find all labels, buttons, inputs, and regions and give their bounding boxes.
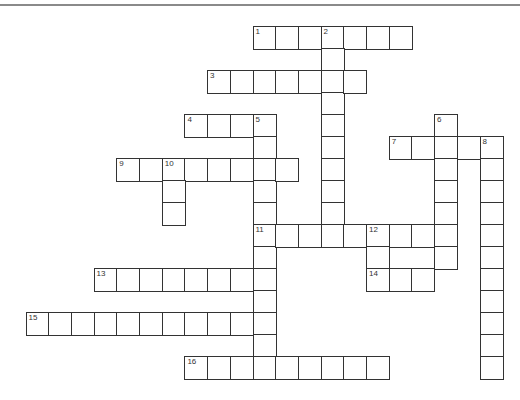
crossword-cell[interactable]: [480, 202, 504, 226]
crossword-cell[interactable]: [298, 356, 322, 380]
crossword-cell[interactable]: [162, 312, 186, 336]
crossword-cell[interactable]: 7: [389, 136, 413, 160]
crossword-cell[interactable]: [321, 48, 345, 72]
crossword-cell[interactable]: [434, 202, 458, 226]
crossword-cell[interactable]: [207, 356, 231, 380]
crossword-cell[interactable]: 15: [26, 312, 50, 336]
crossword-cell[interactable]: [253, 356, 277, 380]
crossword-cell[interactable]: [207, 114, 231, 138]
crossword-cell[interactable]: [480, 158, 504, 182]
crossword-cell[interactable]: [434, 158, 458, 182]
crossword-cell[interactable]: [275, 356, 299, 380]
crossword-cell[interactable]: [139, 158, 163, 182]
crossword-cell[interactable]: [275, 70, 299, 94]
crossword-cell[interactable]: [139, 312, 163, 336]
crossword-cell[interactable]: [207, 268, 231, 292]
crossword-cell[interactable]: 3: [207, 70, 231, 94]
crossword-cell[interactable]: [298, 26, 322, 50]
crossword-cell[interactable]: [253, 70, 277, 94]
crossword-cell[interactable]: [253, 268, 277, 292]
crossword-cell[interactable]: 8: [480, 136, 504, 160]
crossword-cell[interactable]: 16: [184, 356, 208, 380]
crossword-cell[interactable]: [207, 158, 231, 182]
crossword-cell[interactable]: 12: [366, 224, 390, 248]
crossword-cell[interactable]: [366, 26, 390, 50]
crossword-cell[interactable]: 13: [94, 268, 118, 292]
crossword-cell[interactable]: [321, 70, 345, 94]
crossword-cell[interactable]: [275, 224, 299, 248]
crossword-cell[interactable]: [389, 268, 413, 292]
crossword-cell[interactable]: [480, 180, 504, 204]
crossword-cell[interactable]: [321, 158, 345, 182]
crossword-cell[interactable]: [389, 224, 413, 248]
crossword-cell[interactable]: [253, 246, 277, 270]
crossword-cell[interactable]: [480, 312, 504, 336]
crossword-cell[interactable]: [411, 268, 435, 292]
crossword-cell[interactable]: [480, 268, 504, 292]
crossword-cell[interactable]: [321, 180, 345, 204]
crossword-cell[interactable]: [230, 158, 254, 182]
crossword-cell[interactable]: [480, 356, 504, 380]
crossword-cell[interactable]: 14: [366, 268, 390, 292]
crossword-cell[interactable]: [480, 290, 504, 314]
crossword-cell[interactable]: [321, 136, 345, 160]
crossword-cell[interactable]: 2: [321, 26, 345, 50]
crossword-cell[interactable]: [184, 158, 208, 182]
crossword-cell[interactable]: [457, 136, 481, 160]
crossword-cell[interactable]: 10: [162, 158, 186, 182]
crossword-cell[interactable]: [321, 224, 345, 248]
crossword-cell[interactable]: 6: [434, 114, 458, 138]
crossword-cell[interactable]: [207, 312, 231, 336]
crossword-cell[interactable]: 5: [253, 114, 277, 138]
crossword-cell[interactable]: [162, 268, 186, 292]
crossword-cell[interactable]: [71, 312, 95, 336]
crossword-cell[interactable]: [162, 180, 186, 204]
crossword-cell[interactable]: [275, 158, 299, 182]
crossword-cell[interactable]: [434, 180, 458, 204]
crossword-cell[interactable]: [343, 224, 367, 248]
crossword-cell[interactable]: [434, 246, 458, 270]
crossword-cell[interactable]: [116, 268, 140, 292]
crossword-cell[interactable]: [321, 356, 345, 380]
crossword-cell[interactable]: [230, 114, 254, 138]
crossword-cell[interactable]: [253, 158, 277, 182]
crossword-cell[interactable]: 4: [184, 114, 208, 138]
crossword-cell[interactable]: [366, 246, 390, 270]
crossword-cell[interactable]: [411, 136, 435, 160]
crossword-cell[interactable]: [389, 26, 413, 50]
crossword-cell[interactable]: 1: [253, 26, 277, 50]
crossword-cell[interactable]: [230, 356, 254, 380]
crossword-cell[interactable]: [253, 334, 277, 358]
crossword-cell[interactable]: [253, 312, 277, 336]
crossword-cell[interactable]: 11: [253, 224, 277, 248]
crossword-cell[interactable]: [480, 334, 504, 358]
crossword-cell[interactable]: [343, 26, 367, 50]
crossword-cell[interactable]: [116, 312, 140, 336]
crossword-cell[interactable]: [94, 312, 118, 336]
crossword-cell[interactable]: [343, 356, 367, 380]
crossword-cell[interactable]: [48, 312, 72, 336]
crossword-cell[interactable]: [253, 202, 277, 226]
crossword-cell[interactable]: [321, 202, 345, 226]
crossword-cell[interactable]: [480, 246, 504, 270]
crossword-cell[interactable]: [343, 70, 367, 94]
crossword-cell[interactable]: [230, 268, 254, 292]
crossword-cell[interactable]: [480, 224, 504, 248]
crossword-cell[interactable]: [253, 180, 277, 204]
crossword-cell[interactable]: [275, 26, 299, 50]
crossword-cell[interactable]: [253, 290, 277, 314]
crossword-cell[interactable]: [434, 136, 458, 160]
crossword-cell[interactable]: [139, 268, 163, 292]
crossword-cell[interactable]: [366, 356, 390, 380]
crossword-cell[interactable]: [298, 224, 322, 248]
crossword-cell[interactable]: [298, 70, 322, 94]
crossword-cell[interactable]: [434, 224, 458, 248]
crossword-cell[interactable]: [230, 312, 254, 336]
crossword-cell[interactable]: [321, 114, 345, 138]
crossword-cell[interactable]: [162, 202, 186, 226]
crossword-cell[interactable]: 9: [116, 158, 140, 182]
crossword-cell[interactable]: [184, 312, 208, 336]
crossword-cell[interactable]: [184, 268, 208, 292]
crossword-cell[interactable]: [230, 70, 254, 94]
crossword-cell[interactable]: [411, 224, 435, 248]
